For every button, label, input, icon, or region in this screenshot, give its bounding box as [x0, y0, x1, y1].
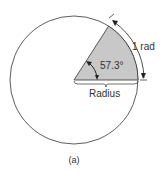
radius-label: Radius	[89, 88, 120, 99]
arc-label: 1 rad	[132, 41, 155, 52]
radius-bracket	[74, 81, 138, 87]
arc-arrow-bottom-icon	[141, 73, 146, 79]
radian-diagram: 57.3° 1 rad Radius (a)	[0, 0, 164, 176]
sector	[74, 26, 138, 80]
caption: (a)	[69, 155, 80, 165]
angle-label: 57.3°	[100, 60, 123, 71]
arc-tick-top	[109, 14, 114, 18]
arc-arrow-top-icon	[112, 20, 118, 26]
